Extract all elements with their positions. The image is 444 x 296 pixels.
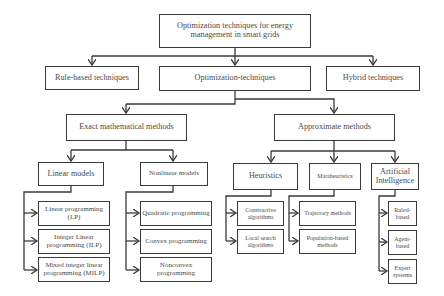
constructive-node: Constructive algorithms	[237, 201, 284, 226]
heuristics-label: Heuristics	[249, 172, 282, 181]
exact-methods-node: Exact mathematical methods	[66, 114, 187, 141]
linear-models-label: Linear models	[47, 170, 94, 179]
approximate-methods-label: Approximate methods	[298, 123, 371, 132]
optimization-taxonomy-diagram: Optimization techniques for energy manag…	[0, 0, 444, 296]
quadratic-node: Quadratic programming	[140, 201, 212, 226]
nonlinear-models-node: Nonlinear models	[140, 162, 208, 186]
agent-based-node: Agent-based	[388, 230, 417, 255]
ilp-node: Integer Linear programming (ILP)	[38, 229, 110, 254]
rule-based-label: Rule-based techniques	[55, 74, 129, 83]
ai-label: Artificial Intelligence	[373, 168, 417, 186]
ruled-based-label: Ruled-based	[390, 207, 415, 220]
trajectory-node: Trajectory methods	[299, 201, 356, 226]
ai-node: Artificial Intelligence	[371, 163, 419, 190]
optimization-techniques-node: Optimization-techniques	[159, 66, 311, 91]
milp-label: Mixed integer linear programming (MILP)	[40, 262, 108, 277]
linear-models-node: Linear models	[38, 162, 104, 186]
exact-methods-label: Exact mathematical methods	[79, 123, 174, 132]
hybrid-label: Hybrid techniques	[343, 74, 403, 83]
milp-node: Mixed integer linear programming (MILP)	[38, 257, 110, 282]
trajectory-label: Trajectory methods	[304, 210, 351, 216]
heuristics-node: Heuristics	[233, 163, 298, 190]
lp-node: Linear programming (LP)	[38, 201, 110, 226]
local-search-label: Local search algorithms	[239, 235, 282, 248]
nonlinear-models-label: Nonlinear models	[149, 170, 199, 178]
hybrid-node: Hybrid techniques	[326, 66, 420, 91]
convex-node: Convex programming	[140, 229, 212, 254]
constructive-label: Constructive algorithms	[239, 207, 282, 220]
expert-systems-node: Expert systems	[388, 259, 417, 284]
agent-based-label: Agent-based	[390, 236, 415, 249]
nonconvex-node: Nonconvex programming	[140, 257, 212, 282]
population-node: Population-based methods	[299, 229, 356, 254]
root-label: Optimization techniques for energy manag…	[161, 22, 309, 40]
metaheuristics-node: Mataheuristics	[309, 163, 361, 190]
rule-based-node: Rule-based techniques	[45, 66, 139, 90]
optimization-techniques-label: Optimization-techniques	[195, 74, 276, 83]
quadratic-label: Quadratic programming	[142, 210, 209, 218]
convex-label: Convex programming	[145, 238, 207, 246]
metaheuristics-label: Mataheuristics	[317, 173, 352, 179]
ruled-based-node: Ruled-based	[388, 201, 417, 226]
population-label: Population-based methods	[301, 235, 354, 248]
local-search-node: Local search algorithms	[237, 229, 284, 254]
nonconvex-label: Nonconvex programming	[142, 262, 210, 277]
ilp-label: Integer Linear programming (ILP)	[40, 234, 108, 249]
approximate-methods-node: Approximate methods	[274, 114, 395, 141]
lp-label: Linear programming (LP)	[40, 206, 108, 221]
root-node: Optimization techniques for energy manag…	[159, 14, 311, 48]
expert-systems-label: Expert systems	[390, 265, 415, 278]
